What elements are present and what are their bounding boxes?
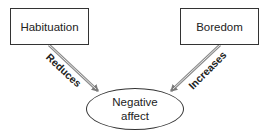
habituation-node: Habituation bbox=[10, 8, 89, 45]
habituation-label: Habituation bbox=[20, 21, 78, 33]
negative-affect-label-line2: affect bbox=[112, 109, 157, 123]
boredom-node: Boredom bbox=[180, 8, 259, 45]
diagram-canvas: Habituation Boredom Negative affect Redu… bbox=[0, 0, 269, 136]
negative-affect-label-line1: Negative bbox=[112, 95, 157, 109]
negative-affect-node: Negative affect bbox=[86, 88, 184, 130]
boredom-label: Boredom bbox=[196, 21, 243, 33]
